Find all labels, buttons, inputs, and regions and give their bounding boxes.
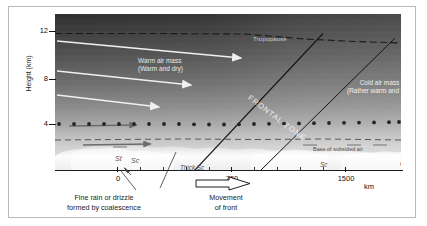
caption-movement-line2: of front: [215, 203, 237, 212]
caption-movement-of-front: Movement of front: [196, 193, 256, 212]
caption-fine-rain: Fine rain or drizzle formed by coalescen…: [36, 193, 172, 212]
caption-fine-rain-line2: formed by coalescence: [67, 203, 141, 212]
caption-movement-line1: Movement: [209, 193, 243, 202]
figure-page: Tropopause Warm air mass (Warm and dry) …: [0, 0, 427, 226]
movement-of-front-arrow-icon: [193, 176, 255, 192]
caption-fine-rain-line1: Fine rain or drizzle: [74, 193, 133, 202]
